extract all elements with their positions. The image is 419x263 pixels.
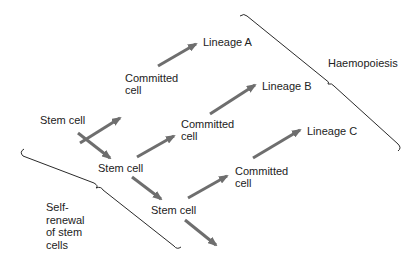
arrow-committed2-to-lineage-b — [210, 85, 255, 114]
arrow-stem1-to-stem2 — [78, 133, 110, 158]
lineage-b-label: Lineage B — [262, 80, 312, 92]
haemopoiesis-diagram: Stem cell Stem cell Stem cell Committed … — [0, 0, 419, 263]
arrow-stem3-to-committed3 — [188, 176, 227, 198]
stem-cell-label-3: Stem cell — [151, 204, 196, 216]
arrow-stem3-continuation — [185, 220, 216, 245]
stem-cell-label-1: Stem cell — [40, 114, 85, 126]
lineage-c-label: Lineage C — [307, 125, 357, 137]
lineage-a-label: Lineage A — [203, 36, 252, 48]
arrow-stem2-to-stem3 — [132, 177, 161, 199]
stem-cell-label-2: Stem cell — [98, 162, 143, 174]
haemopoiesis-label: Haemopoiesis — [328, 57, 398, 69]
arrow-stem2-to-committed2 — [137, 136, 174, 157]
self-renewal-label: Self- renewal of stem cells — [46, 201, 85, 251]
committed-cell-label-3: Committed cell — [235, 165, 288, 189]
arrow-committed3-to-lineage-c — [253, 130, 300, 158]
committed-cell-label-2: Committed cell — [181, 118, 234, 142]
arrow-committed1-to-lineage-a — [158, 44, 196, 66]
committed-cell-label-1: Committed cell — [125, 72, 178, 96]
